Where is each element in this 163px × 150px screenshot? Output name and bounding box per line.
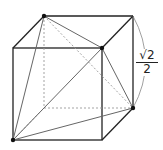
label-denominator: 2 — [136, 63, 158, 76]
label-numerator: √2 — [136, 49, 158, 63]
edge-length-label: √2 2 — [136, 49, 158, 76]
